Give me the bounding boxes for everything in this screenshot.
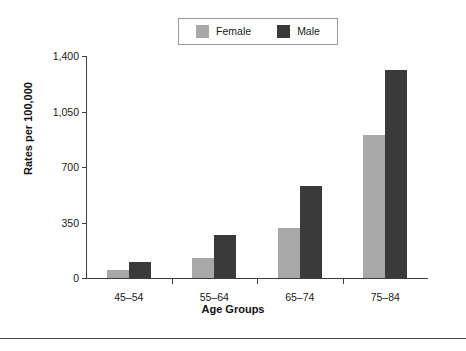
y-tick-mark	[82, 167, 86, 168]
bar-male-75–84	[385, 70, 407, 278]
legend-swatch-female	[196, 25, 209, 38]
legend-entry-female: Female	[196, 25, 251, 38]
bar-male-45–54	[129, 262, 151, 278]
y-tick-label: 1,050	[53, 106, 79, 117]
y-tick-mark	[82, 56, 86, 57]
y-tick-label: 0	[73, 273, 79, 284]
y-tick-label: 700	[61, 162, 79, 173]
y-tick-label: 1,400	[53, 51, 79, 62]
x-tick-mark	[257, 279, 258, 284]
x-category-label: 45–54	[114, 292, 143, 303]
bar-chart-figure: Female Male 03507001,0501,400 45–5455–64…	[0, 0, 466, 351]
bar-male-55–64	[214, 235, 236, 278]
footer-divider	[0, 338, 466, 339]
y-tick-label: 350	[61, 217, 79, 228]
y-tick-mark	[82, 223, 86, 224]
y-axis-title: Rates per 100,000	[22, 82, 34, 175]
x-category-label: 65–74	[285, 292, 314, 303]
x-axis-title: Age Groups	[0, 303, 466, 315]
chart-legend: Female Male	[178, 18, 338, 45]
x-tick-mark	[343, 279, 344, 284]
legend-label-male: Male	[297, 26, 320, 37]
x-category-label: 75–84	[371, 292, 400, 303]
bar-male-65–74	[300, 186, 322, 278]
y-axis-line	[86, 56, 87, 279]
x-category-label: 55–64	[200, 292, 229, 303]
y-tick-mark	[82, 112, 86, 113]
legend-label-female: Female	[216, 26, 251, 37]
x-tick-mark	[172, 279, 173, 284]
plot-area: 03507001,0501,400 45–5455–6465–7475–84	[86, 56, 428, 278]
legend-swatch-male	[277, 25, 290, 38]
y-tick-mark	[82, 278, 86, 279]
bar-female-45–54	[107, 270, 129, 278]
bar-female-65–74	[278, 228, 300, 278]
legend-entry-male: Male	[277, 25, 320, 38]
bar-female-55–64	[192, 258, 214, 278]
bar-female-75–84	[363, 135, 385, 278]
